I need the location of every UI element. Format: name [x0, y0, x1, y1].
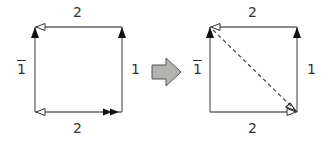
left-bottom-label: 2 — [73, 121, 82, 135]
arrow-up-icon — [206, 27, 214, 38]
arrow-left-open-icon — [36, 109, 45, 116]
left-left-label: 1 — [17, 62, 26, 76]
right-right-label: 1 — [307, 62, 316, 76]
arrow-up-icon — [118, 27, 126, 38]
arrow-up-icon — [31, 27, 39, 38]
right-top-label: 2 — [248, 5, 257, 19]
diagram-canvas — [0, 0, 329, 146]
arrow-left-open-icon — [36, 24, 45, 31]
arrow-left-open-icon — [211, 24, 220, 31]
double-arrow-right-icon — [110, 109, 119, 116]
diagonal-dashed-edge — [213, 30, 294, 109]
transform-arrow-icon — [152, 58, 181, 86]
left-square — [31, 24, 126, 116]
right-left-label: 1 — [193, 62, 202, 76]
arrow-up-icon — [293, 27, 301, 38]
right-bottom-label: 2 — [248, 121, 257, 135]
left-right-label: 1 — [131, 62, 140, 76]
left-top-label: 2 — [73, 5, 82, 19]
right-square — [206, 24, 301, 116]
